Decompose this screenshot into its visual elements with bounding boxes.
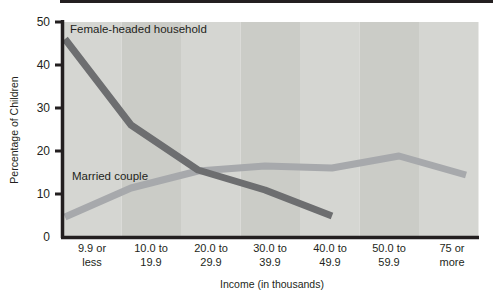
x-tick-label-2-line2: 29.9: [200, 256, 221, 268]
y-tick-label-40: 40: [37, 58, 51, 72]
series-annotation-married-couple: Married couple: [72, 170, 148, 182]
y-tick-label-10: 10: [37, 187, 51, 201]
background-bands: [62, 22, 479, 237]
x-tick-label-5-line1: 50.0 to: [372, 242, 406, 254]
x-tick-label-2-line1: 20.0 to: [194, 242, 228, 254]
x-tick-label-1-line2: 19.9: [140, 256, 161, 268]
x-tick-label-4-line2: 49.9: [319, 256, 340, 268]
y-tick-label-20: 20: [37, 144, 51, 158]
band-1: [122, 22, 182, 237]
x-axis-title: Income (in thousands): [220, 278, 324, 290]
y-axis-title: Percentage of Children: [8, 76, 20, 184]
x-tick-label-4-line1: 40.0 to: [313, 242, 347, 254]
x-tick-label-1-line1: 10.0 to: [134, 242, 168, 254]
band-6: [419, 22, 479, 237]
chart-figure: 50 40 30 20 10 0 Percentage of Children …: [0, 0, 493, 303]
x-tick-label-3-line2: 39.9: [259, 256, 280, 268]
series-annotation-female-headed-household: Female-headed household: [70, 23, 207, 35]
x-tick-label-3-line1: 30.0 to: [253, 242, 287, 254]
x-tick-label-5-line2: 59.9: [378, 256, 399, 268]
x-tick-label-0-line2: less: [82, 256, 102, 268]
x-tick-label-0-line1: 9.9 or: [78, 242, 106, 254]
band-5: [360, 22, 420, 237]
x-tick-label-6-line1: 75 or: [439, 242, 464, 254]
band-3: [241, 22, 301, 237]
y-tick-label-50: 50: [37, 15, 51, 29]
line-chart: 50 40 30 20 10 0 Percentage of Children …: [0, 0, 493, 303]
y-tick-label-30: 30: [37, 101, 51, 115]
y-tick-label-0: 0: [43, 230, 50, 244]
x-tick-label-6-line2: more: [439, 256, 464, 268]
x-axis-tick-labels: 9.9 or less 10.0 to 19.9 20.0 to 29.9 30…: [78, 242, 465, 268]
band-2: [181, 22, 241, 237]
